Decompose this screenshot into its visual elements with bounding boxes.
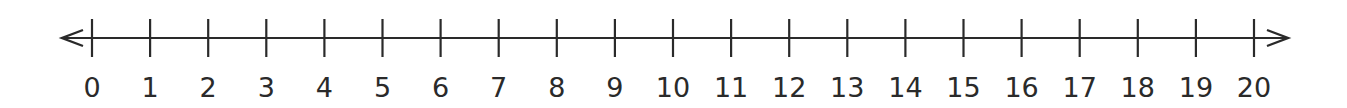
tick-label: 16 (1004, 72, 1038, 103)
tick-label: 19 (1179, 72, 1213, 103)
tick-label: 8 (548, 72, 565, 103)
tick-label: 12 (772, 72, 806, 103)
tick-label: 5 (374, 72, 391, 103)
number-line-labels: 01234567891011121314151617181920 (83, 72, 1271, 103)
tick-label: 3 (258, 72, 275, 103)
tick-label: 11 (714, 72, 748, 103)
tick-label: 10 (656, 72, 690, 103)
tick-label: 20 (1237, 72, 1271, 103)
tick-label: 14 (888, 72, 922, 103)
tick-label: 18 (1121, 72, 1155, 103)
tick-label: 7 (490, 72, 507, 103)
tick-label: 15 (946, 72, 980, 103)
tick-label: 2 (200, 72, 217, 103)
tick-label: 17 (1063, 72, 1097, 103)
number-line: 01234567891011121314151617181920 (0, 0, 1347, 108)
tick-label: 1 (142, 72, 159, 103)
tick-label: 13 (830, 72, 864, 103)
number-line-ticks (92, 19, 1254, 57)
tick-label: 6 (432, 72, 449, 103)
tick-label: 0 (83, 72, 100, 103)
number-line-axis (62, 30, 1288, 46)
tick-label: 9 (606, 72, 623, 103)
tick-label: 4 (316, 72, 333, 103)
